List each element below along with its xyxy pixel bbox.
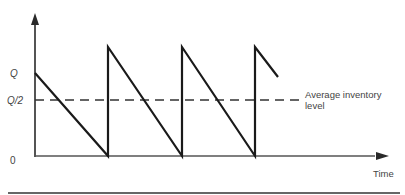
avg-annotation-line2: level bbox=[305, 100, 325, 111]
inventory-chart: Q Q/2 0 Average inventory level Time bbox=[0, 0, 405, 195]
y-label-zero: 0 bbox=[10, 155, 16, 166]
y-label-q: Q bbox=[10, 68, 18, 79]
y-axis-arrow-icon bbox=[31, 13, 39, 25]
x-axis-arrow-icon bbox=[376, 152, 389, 160]
inventory-sawtooth bbox=[35, 47, 278, 156]
avg-annotation-line1: Average inventory bbox=[305, 89, 382, 100]
y-label-q-half: Q/2 bbox=[7, 95, 24, 106]
x-label-time: Time bbox=[373, 168, 394, 179]
